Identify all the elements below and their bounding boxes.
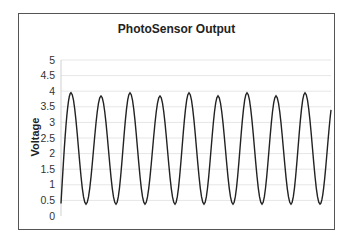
y-tick-label: 1.5 (40, 163, 55, 175)
voltage-line-series (61, 93, 331, 204)
plot-area: 00.511.522.533.544.55 (0, 0, 352, 247)
y-tick-label: 1 (49, 178, 55, 190)
y-tick-label: 3.5 (40, 100, 55, 112)
y-tick-label: 0 (49, 210, 55, 222)
y-tick-labels: 00.511.522.533.544.55 (40, 54, 55, 222)
y-tick-label: 4 (49, 85, 55, 97)
y-tick-label: 2 (49, 147, 55, 159)
y-tick-label: 3 (49, 116, 55, 128)
y-tick-label: 5 (49, 54, 55, 66)
gridlines (61, 60, 331, 200)
y-tick-label: 2.5 (40, 132, 55, 144)
y-tick-label: 4.5 (40, 69, 55, 81)
y-tick-label: 0.5 (40, 194, 55, 206)
